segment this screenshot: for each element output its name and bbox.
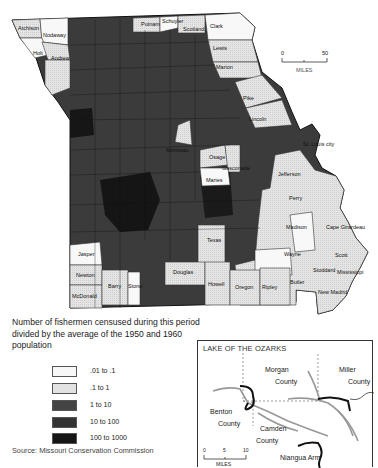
county-label: Perry xyxy=(289,196,302,202)
inset-label-niangua: Niangua Arm xyxy=(280,454,320,461)
county-label: Newton xyxy=(76,273,95,279)
county-label: Scott xyxy=(335,253,348,259)
county-label: Marion xyxy=(216,65,233,71)
legend-swatch xyxy=(52,383,77,394)
legend-swatch xyxy=(52,366,77,377)
legend-label: 100 to 1000 xyxy=(90,434,127,441)
county-label: Stone xyxy=(128,284,142,290)
county-label: Cape Girardeau xyxy=(326,225,365,231)
inset-label-camden: Camden xyxy=(260,425,286,432)
scale-unit: MILES xyxy=(296,68,313,74)
inset-label-miller: Miller xyxy=(339,366,356,373)
legend-swatch xyxy=(52,417,77,428)
county-label: Texas xyxy=(207,238,221,244)
county-label: Gasconade xyxy=(222,166,250,172)
county-label: Oregon xyxy=(235,285,253,291)
legend-label: .1 to 1 xyxy=(90,384,109,391)
county-label: Mississippi xyxy=(337,270,364,276)
legend-swatch xyxy=(52,400,77,411)
inset-label-miller: County xyxy=(348,378,370,385)
inset-label-benton: County xyxy=(218,420,240,427)
county-label: McDonald xyxy=(72,294,97,300)
county-label: Clark xyxy=(210,24,223,30)
scale-start: 0 xyxy=(281,51,284,57)
county-label: Lincoln xyxy=(249,117,266,123)
county-label: Howell xyxy=(208,282,225,288)
county-label: St. Louis city xyxy=(303,142,334,148)
county-label: Holt xyxy=(33,51,43,57)
inset-scale-start: 0 xyxy=(203,447,206,453)
county-label: Butler xyxy=(290,280,304,286)
county-label: Lewis xyxy=(213,46,227,52)
inset-scale-end: 10 xyxy=(243,447,249,453)
inset-scale-unit: MILES xyxy=(216,461,231,467)
county-label: Barry xyxy=(108,284,121,290)
source-note: Source: Missouri Conservation Commission xyxy=(12,446,154,455)
county-label: Jasper xyxy=(78,252,95,258)
county-label: Scotland xyxy=(183,27,204,33)
county-label: Jefferson xyxy=(278,172,301,178)
county-label: Osage xyxy=(209,155,225,161)
county-label: Moniteau xyxy=(166,148,189,154)
county-label: Atchison xyxy=(18,26,39,32)
legend-label: .01 to .1 xyxy=(90,367,115,374)
inset-label-morgan: County xyxy=(275,378,297,385)
county-label: Wayne xyxy=(284,252,301,258)
inset-scale-mid: 5 xyxy=(223,447,226,453)
county-label: Schuyler xyxy=(162,19,183,25)
county-label: Nodaway xyxy=(43,33,66,39)
county-label: Andrew xyxy=(51,56,70,62)
scale-end: 50 xyxy=(322,51,328,57)
county-label: Maries xyxy=(206,178,223,184)
map-scale-bar xyxy=(282,58,327,62)
inset-lake-of-the-ozarks: LAKE OF THE OZARKS Morgan County Miller … xyxy=(197,340,373,467)
county-label: Stoddard xyxy=(313,268,335,274)
county-label: Pike xyxy=(243,96,254,102)
legend-title: Number of fishermen censused during this… xyxy=(12,317,202,352)
legend-swatch xyxy=(52,433,77,444)
legend-label: 1 to 10 xyxy=(90,401,111,408)
county-label: New Madrid xyxy=(318,290,347,296)
county-label: Putnam xyxy=(141,22,160,28)
inset-label-benton: Benton xyxy=(210,408,232,415)
inset-label-morgan: Morgan xyxy=(265,366,289,373)
county-label: Ripley xyxy=(262,285,277,291)
legend-label: 10 to 100 xyxy=(90,418,119,425)
county-label: Madison xyxy=(286,225,307,231)
inset-label-camden: County xyxy=(256,437,278,444)
county-label: Douglas xyxy=(173,270,193,276)
